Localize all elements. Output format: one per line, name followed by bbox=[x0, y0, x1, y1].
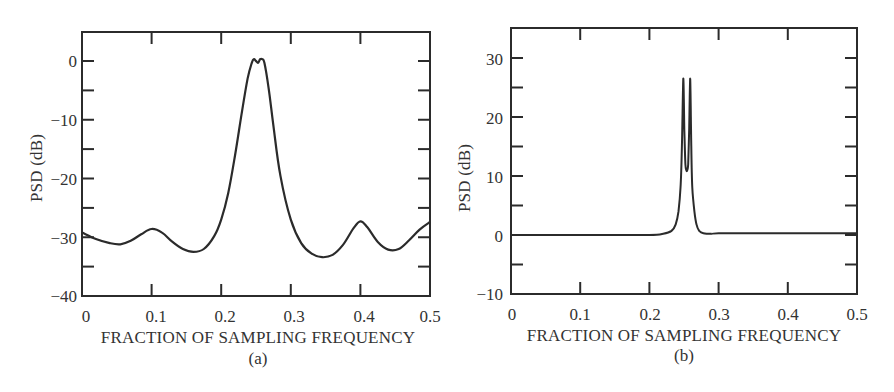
plot-frame-b bbox=[511, 28, 857, 294]
x-tick-label: 0.5 bbox=[846, 305, 867, 324]
x-tick-labels-b: 0 0.1 0.2 0.3 0.4 0.5 bbox=[508, 305, 868, 324]
figure: 0 −10 −20 −30 −40 0 0.1 0.2 0.3 0.4 0.5 … bbox=[0, 0, 894, 392]
panel-a: 0 −10 −20 −30 −40 0 0.1 0.2 0.3 0.4 0.5 … bbox=[27, 32, 441, 368]
x-tick-labels-a: 0 0.1 0.2 0.3 0.4 0.5 bbox=[82, 307, 441, 326]
plot-frame-a bbox=[82, 32, 430, 296]
y-axis-title-b: PSD (dB) bbox=[455, 144, 474, 212]
x-tick-label: 0.2 bbox=[639, 305, 660, 324]
x-ticks-b bbox=[580, 28, 788, 294]
y-tick-label: −30 bbox=[50, 229, 77, 248]
x-axis-title-a: FRACTION OF SAMPLING FREQUENCY bbox=[101, 328, 415, 347]
x-tick-label: 0.3 bbox=[283, 307, 304, 326]
caption-b: (b) bbox=[674, 346, 694, 365]
psd-curve-b bbox=[511, 79, 857, 235]
caption-a: (a) bbox=[249, 349, 268, 368]
x-axis-title-b: FRACTION OF SAMPLING FREQUENCY bbox=[527, 326, 841, 345]
x-tick-label: 0.1 bbox=[145, 307, 166, 326]
x-tick-label: 0 bbox=[82, 307, 91, 326]
y-axis-title-a: PSD (dB) bbox=[27, 134, 46, 202]
y-tick-label: 0 bbox=[495, 227, 504, 246]
y-tick-label: 20 bbox=[486, 109, 503, 128]
x-tick-label: 0.4 bbox=[353, 307, 375, 326]
x-tick-label: 0.5 bbox=[419, 307, 440, 326]
y-tick-label: 10 bbox=[486, 168, 503, 187]
y-tick-label: −10 bbox=[50, 111, 77, 130]
x-tick-label: 0.4 bbox=[777, 305, 799, 324]
x-tick-label: 0.3 bbox=[708, 305, 729, 324]
y-tick-label: −20 bbox=[50, 170, 77, 189]
x-tick-label: 0 bbox=[508, 305, 517, 324]
x-tick-label: 0.2 bbox=[214, 307, 235, 326]
y-tick-labels-a: 0 −10 −20 −30 −40 bbox=[50, 52, 77, 306]
y-tick-label: 0 bbox=[69, 52, 78, 71]
x-tick-label: 0.1 bbox=[569, 305, 590, 324]
panel-b: 30 20 10 0 −10 0 0.1 0.2 0.3 0.4 0.5 FRA… bbox=[455, 28, 868, 365]
y-ticks-a bbox=[82, 61, 430, 267]
psd-curve-a bbox=[82, 59, 430, 258]
y-tick-label: 30 bbox=[486, 50, 503, 69]
y-tick-label: −10 bbox=[476, 285, 503, 304]
y-tick-label: −40 bbox=[50, 287, 77, 306]
y-tick-labels-b: 30 20 10 0 −10 bbox=[476, 50, 503, 304]
